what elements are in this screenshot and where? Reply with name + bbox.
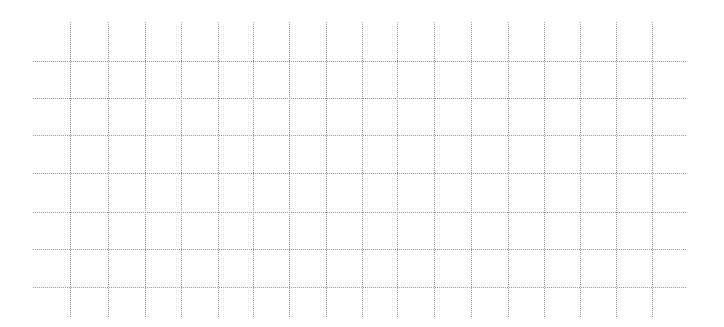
grid-horizontal-line (33, 135, 686, 136)
grid-vertical-line (289, 22, 290, 317)
grid-vertical-line (434, 22, 435, 317)
grid-horizontal-line (33, 287, 686, 288)
dotted-grid (0, 0, 724, 327)
grid-vertical-line (397, 22, 398, 317)
grid-vertical-line (253, 22, 254, 317)
grid-vertical-line (181, 22, 182, 317)
grid-vertical-line (108, 22, 109, 317)
grid-vertical-line (471, 22, 472, 317)
grid-vertical-line (508, 22, 509, 317)
grid-vertical-line (145, 22, 146, 317)
grid-horizontal-line (33, 249, 686, 250)
grid-vertical-line (580, 22, 581, 317)
grid-vertical-line (362, 22, 363, 317)
grid-vertical-line (544, 22, 545, 317)
grid-horizontal-line (33, 98, 686, 99)
grid-vertical-line (652, 22, 653, 317)
grid-vertical-line (326, 22, 327, 317)
grid-horizontal-line (33, 61, 686, 62)
grid-vertical-line (218, 22, 219, 317)
grid-vertical-line (70, 22, 71, 317)
grid-horizontal-line (33, 212, 686, 213)
grid-horizontal-line (33, 173, 686, 174)
grid-vertical-line (616, 22, 617, 317)
